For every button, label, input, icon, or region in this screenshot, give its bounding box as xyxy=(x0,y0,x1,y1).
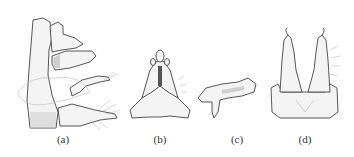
panel-d-drawing xyxy=(271,28,340,118)
panel-c-label: (c) xyxy=(231,133,243,145)
panel-c-drawing xyxy=(198,78,256,118)
panel-d-label: (d) xyxy=(299,133,312,145)
panel-b-drawing xyxy=(130,50,190,118)
panel-a-drawing xyxy=(18,18,120,130)
figure: (a) (b) (c) (d) xyxy=(0,0,354,157)
panel-a-label: (a) xyxy=(57,133,69,145)
panel-b-label: (b) xyxy=(154,133,167,145)
